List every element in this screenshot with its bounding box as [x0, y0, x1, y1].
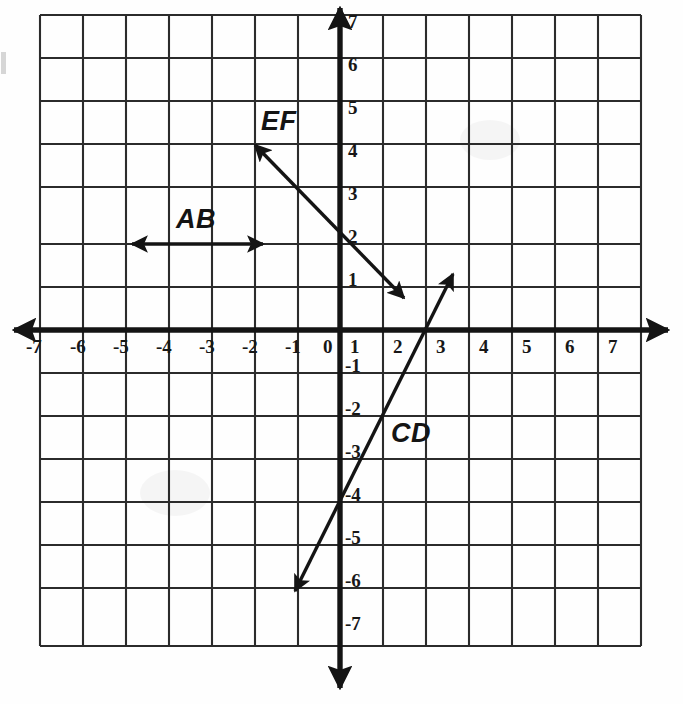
x-tick-label--2: -2 — [242, 337, 258, 356]
x-tick-label-4: 4 — [479, 337, 489, 356]
label-line-ef: EF — [261, 108, 297, 135]
graph-canvas — [0, 0, 683, 704]
x-tick-label--1: -1 — [285, 337, 301, 356]
x-tick-label--5: -5 — [113, 337, 129, 356]
y-tick-label-7: 7 — [348, 12, 358, 31]
x-tick-label-3: 3 — [436, 337, 446, 356]
x-tick-label-1: 1 — [350, 337, 360, 356]
y-tick-label--4: -4 — [345, 485, 361, 504]
y-tick-label--2: -2 — [345, 399, 361, 418]
y-tick-label--1: -1 — [345, 356, 361, 375]
x-tick-label-7: 7 — [608, 337, 618, 356]
x-tick-label--6: -6 — [70, 337, 86, 356]
y-tick-label--5: -5 — [345, 528, 361, 547]
y-tick-label--6: -6 — [345, 571, 361, 590]
y-tick-label-1: 1 — [348, 270, 358, 289]
y-tick-label-3: 3 — [348, 184, 358, 203]
y-tick-label-6: 6 — [348, 55, 358, 74]
x-tick-label-2: 2 — [393, 337, 403, 356]
coordinate-plane-figure: -7 -6 -5 -4 -3 -2 -1 0 1 2 3 4 5 6 7 1 2… — [0, 0, 683, 704]
x-tick-label-6: 6 — [565, 337, 575, 356]
x-tick-label--7: -7 — [26, 337, 42, 356]
y-tick-label-2: 2 — [348, 227, 358, 246]
x-tick-label--4: -4 — [156, 337, 172, 356]
label-line-ab: AB — [176, 206, 216, 233]
x-tick-label-5: 5 — [522, 337, 532, 356]
x-tick-label--3: -3 — [199, 337, 215, 356]
line-ef — [255, 145, 404, 298]
origin-label: 0 — [323, 337, 333, 356]
y-tick-label--7: -7 — [345, 614, 361, 633]
y-tick-label-4: 4 — [348, 141, 358, 160]
y-tick-label-5: 5 — [348, 98, 358, 117]
y-tick-label--3: -3 — [345, 442, 361, 461]
label-line-cd: CD — [391, 420, 431, 447]
